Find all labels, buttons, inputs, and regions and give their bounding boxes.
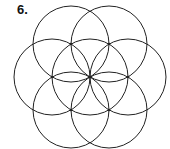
intersection-dot — [70, 43, 73, 46]
intersection-dot — [108, 43, 111, 46]
intersection-dot — [108, 109, 111, 112]
intersection-dot — [89, 76, 92, 79]
intersection-dot — [51, 76, 54, 79]
diagram-canvas: 6. — [0, 0, 170, 149]
seed-of-life-diagram — [0, 0, 170, 149]
intersection-dot — [127, 76, 130, 79]
intersection-dot — [70, 109, 73, 112]
